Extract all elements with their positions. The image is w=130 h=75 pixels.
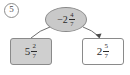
right-mixed-number: 2 5 7 (97, 43, 110, 60)
oval-fraction: 4 7 (69, 12, 75, 28)
problem-number-label: 5 (9, 4, 14, 14)
right-box[interactable]: 2 5 7 (82, 38, 124, 65)
oval-denominator: 7 (69, 21, 74, 28)
right-denominator: 7 (104, 53, 110, 60)
left-fraction: 2 7 (31, 43, 37, 60)
left-numerator: 2 (32, 43, 38, 50)
left-denominator: 7 (32, 53, 38, 60)
mixed-number-oval[interactable]: − 2 4 7 (45, 7, 87, 32)
right-fraction: 5 7 (103, 43, 109, 60)
left-mixed-number: 5 2 7 (25, 43, 38, 60)
problem-number-marker: 5 (4, 3, 19, 18)
right-numerator: 5 (104, 43, 110, 50)
diagram-canvas: 5 − 2 4 7 5 2 7 2 5 (0, 0, 130, 75)
oval-mixed-number: − 2 4 7 (57, 12, 75, 28)
connector-left (31, 27, 50, 38)
oval-numerator: 4 (69, 12, 74, 19)
left-box[interactable]: 5 2 7 (10, 38, 52, 65)
